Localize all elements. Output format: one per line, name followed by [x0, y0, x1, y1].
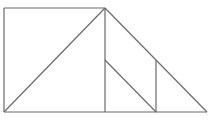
geometric-figure: [0, 0, 211, 120]
